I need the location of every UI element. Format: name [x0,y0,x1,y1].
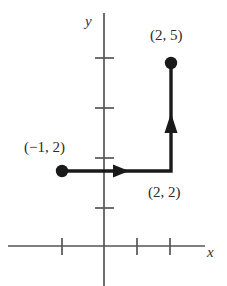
arrowhead-right [113,165,129,178]
path-segments [62,63,171,171]
arrowhead-up [165,113,178,133]
point-label-end: (2, 5) [150,28,183,43]
point-label-corner: (2, 2) [148,185,181,200]
coordinate-plane-figure: y x (2, 5) (−1, 2) (2, 2) [0,0,227,286]
path-polyline [62,63,171,171]
point-marker-start [56,165,68,177]
point-marker-end [165,57,177,69]
x-axis-label: x [207,245,214,260]
point-label-start: (−1, 2) [24,140,65,155]
endpoint-markers [56,57,177,177]
direction-arrowheads [113,113,178,178]
y-axis-label: y [85,14,92,29]
